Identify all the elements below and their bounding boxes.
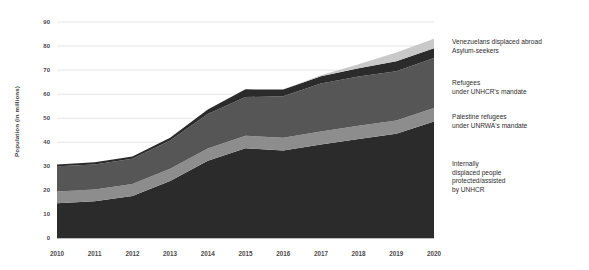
legend-line-refugees: Refugees <box>452 79 527 88</box>
legend-venezuelans-asylum: Venezuelans displaced abroad Asylum-seek… <box>452 38 542 55</box>
legend-refugees-unhcr: Refugees under UNHCR's mandate <box>452 79 527 96</box>
y-tick-60: 60 <box>30 91 50 97</box>
y-tick-70: 70 <box>30 67 50 73</box>
legend-line-unhcr-mandate: under UNHCR's mandate <box>452 88 527 97</box>
y-tick-90: 90 <box>30 19 50 25</box>
x-tick-2015: 2015 <box>238 250 252 257</box>
legend-line-protected-assisted: protected/assisted <box>452 177 506 186</box>
legend-line-palestine-refugees: Palestine refugees <box>452 113 527 122</box>
legend-line-asylum-seekers: Asylum-seekers <box>452 47 542 56</box>
legend-line-displaced-people: displaced people <box>452 169 506 178</box>
x-tick-2012: 2012 <box>125 250 139 257</box>
legend-line-unrwa-mandate: under UNRWA's mandate <box>452 122 527 131</box>
y-tick-40: 40 <box>30 139 50 145</box>
y-axis-title: Population (in millions) <box>13 62 20 182</box>
legend-line-by-unhcr: by UNHCR <box>452 186 506 195</box>
legend-palestine-unrwa: Palestine refugees under UNRWA's mandate <box>452 113 527 130</box>
x-tick-2020: 2020 <box>427 250 441 257</box>
x-tick-2018: 2018 <box>352 250 366 257</box>
y-tick-10: 10 <box>30 211 50 217</box>
y-axis-tick-column: 90 80 70 60 50 40 30 20 10 0 <box>28 0 50 270</box>
legend-idp-unhcr: Internally displaced people protected/as… <box>452 160 506 194</box>
legend-line-venezuelans: Venezuelans displaced abroad <box>452 38 542 47</box>
x-tick-2011: 2011 <box>88 250 102 257</box>
x-tick-2013: 2013 <box>163 250 177 257</box>
x-tick-2016: 2016 <box>276 250 290 257</box>
x-tick-2017: 2017 <box>314 250 328 257</box>
y-tick-50: 50 <box>30 115 50 121</box>
x-tick-2014: 2014 <box>201 250 215 257</box>
x-tick-2010: 2010 <box>50 250 64 257</box>
legend-line-internally: Internally <box>452 160 506 169</box>
area-series-group <box>57 39 434 239</box>
y-tick-20: 20 <box>30 187 50 193</box>
x-tick-2019: 2019 <box>389 250 403 257</box>
stacked-area-chart: Population (in millions) 90 80 70 60 50 … <box>0 0 589 270</box>
y-tick-80: 80 <box>30 43 50 49</box>
y-tick-30: 30 <box>30 163 50 169</box>
y-tick-0: 0 <box>30 235 50 241</box>
